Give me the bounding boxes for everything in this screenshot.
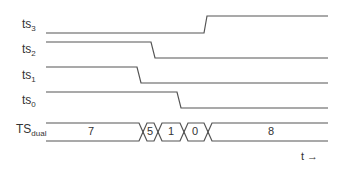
bus-value: 8 xyxy=(268,125,274,137)
wave-ts0 xyxy=(46,92,328,108)
bus-value: 7 xyxy=(88,125,94,137)
wave-ts3 xyxy=(46,16,328,33)
bus-value: 5 xyxy=(147,125,153,137)
bus-value: 1 xyxy=(168,125,174,137)
wave-ts2 xyxy=(46,42,328,58)
bus-value: 0 xyxy=(192,125,198,137)
timing-diagram xyxy=(0,0,345,170)
time-axis-label: t → xyxy=(301,150,318,162)
wave-ts1 xyxy=(46,67,328,83)
